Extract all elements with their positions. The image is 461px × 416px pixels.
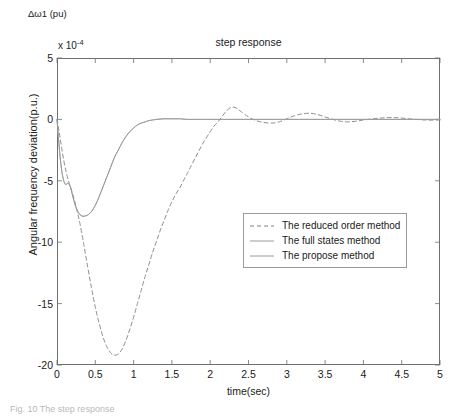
legend-item-label: The propose method — [282, 250, 374, 262]
tick-marks-group — [57, 58, 440, 365]
series-line — [57, 119, 440, 217]
y-tick-label: -15 — [38, 298, 53, 309]
figure-caption: Fig. 10 The step response — [10, 404, 310, 415]
legend-line-sample-icon — [249, 236, 275, 246]
y-tick-label: 0 — [47, 114, 53, 125]
plot-area — [57, 58, 440, 365]
chart-legend: The reduced order methodThe full states … — [243, 213, 407, 268]
axis-annotation-label: Δω1 (pu) — [28, 8, 67, 20]
y-tick-label: -5 — [44, 175, 53, 186]
plot-canvas — [57, 58, 440, 365]
legend-item-label: The full states method — [282, 235, 380, 247]
x-tick-label: 5 — [437, 369, 443, 380]
x-tick-label: 1 — [131, 369, 137, 380]
x-tick-label: 2 — [207, 369, 213, 380]
y-tick-label: -20 — [38, 360, 53, 371]
x-tick-label: 0.5 — [88, 369, 103, 380]
legend-line-sample-icon — [249, 251, 275, 261]
x-axis-tick-labels: 00.511.522.533.544.55 — [57, 369, 440, 383]
legend-item[interactable]: The propose method — [249, 248, 400, 263]
chart-title: step response — [57, 36, 440, 49]
x-tick-label: 2.5 — [241, 369, 256, 380]
series-line — [57, 119, 440, 217]
legend-item-label: The reduced order method — [282, 220, 400, 232]
x-tick-label: 1.5 — [165, 369, 180, 380]
legend-item[interactable]: The full states method — [249, 233, 400, 248]
figure-panel: Δω1 (pu) step response x 10-4 50-5-10-15… — [0, 0, 461, 416]
y-tick-label: 5 — [47, 53, 53, 64]
x-tick-label: 3.5 — [318, 369, 333, 380]
y-axis-multiplier-label: x 10-4 — [58, 40, 84, 51]
y-axis-multiplier-exponent: -4 — [77, 38, 84, 47]
y-axis-multiplier-prefix: x 10 — [58, 40, 77, 51]
x-axis-title: time(sec) — [57, 385, 440, 398]
x-tick-label: 3 — [284, 369, 290, 380]
x-tick-label: 4 — [360, 369, 366, 380]
y-axis-title: Angular frequency deviation(p.u.) — [27, 50, 40, 300]
y-tick-label: -10 — [38, 237, 53, 248]
x-tick-label: 0 — [54, 369, 60, 380]
legend-line-sample-icon — [249, 221, 275, 231]
x-tick-label: 4.5 — [394, 369, 409, 380]
legend-item[interactable]: The reduced order method — [249, 218, 400, 233]
